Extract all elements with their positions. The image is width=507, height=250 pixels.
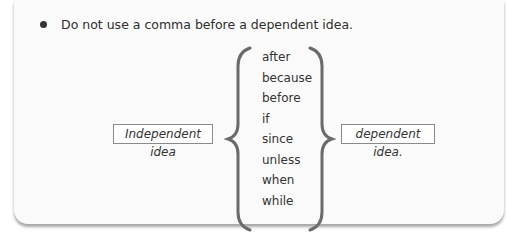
dependent-idea-box: dependent idea. [341, 124, 435, 144]
connector-word: while [262, 191, 312, 212]
connector-word: if [262, 109, 312, 130]
connector-word: after [262, 47, 312, 68]
connector-word: unless [262, 150, 312, 171]
rule-card [14, 0, 504, 224]
connector-word: since [262, 129, 312, 150]
rule-text: Do not use a comma before a dependent id… [61, 17, 353, 32]
right-brace-icon [306, 44, 336, 234]
connector-list: after because before if since unless whe… [262, 47, 312, 211]
left-brace-icon [224, 44, 254, 234]
connector-word: before [262, 88, 312, 109]
connector-word: because [262, 68, 312, 89]
connector-word: when [262, 170, 312, 191]
rule-line: Do not use a comma before a dependent id… [40, 17, 353, 32]
independent-idea-box: Independent idea [113, 124, 213, 144]
bullet-icon [40, 21, 47, 28]
